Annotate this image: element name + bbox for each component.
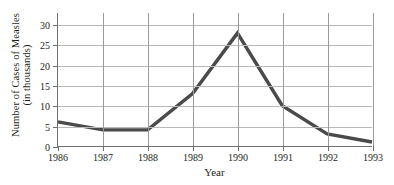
- y-axis-tick-label: 20: [40, 60, 50, 71]
- vertical-gridline: [238, 13, 239, 146]
- horizontal-gridline: [58, 66, 372, 67]
- x-axis-tick: [193, 146, 194, 151]
- y-axis-title-line-1: Number of Cases of Measles: [10, 13, 21, 137]
- y-axis-tick-label: 0: [45, 142, 50, 153]
- y-axis-tick: [53, 106, 58, 107]
- x-axis-title: Year: [57, 166, 372, 178]
- x-axis-tick: [103, 146, 104, 151]
- vertical-gridline: [373, 13, 374, 146]
- x-axis-tick-label: 1986: [48, 152, 68, 163]
- y-axis-tick-label: 5: [45, 121, 50, 132]
- horizontal-gridline: [58, 25, 372, 26]
- y-axis-title: Number of Cases of Measles (in thousands…: [4, 10, 38, 140]
- y-axis-tick: [53, 25, 58, 26]
- x-axis-tick-label: 1989: [183, 152, 203, 163]
- x-axis-tick: [328, 146, 329, 151]
- y-axis-tick-label: 15: [40, 81, 50, 92]
- x-axis-tick: [238, 146, 239, 151]
- y-axis-tick-label: 10: [40, 101, 50, 112]
- x-axis-tick-label: 1991: [273, 152, 293, 163]
- measles-cases-line-chart: Number of Cases of Measles (in thousands…: [0, 0, 394, 185]
- horizontal-gridline: [58, 45, 372, 46]
- x-axis-tick-label: 1990: [228, 152, 248, 163]
- x-axis-tick-label: 1993: [363, 152, 383, 163]
- y-axis-tick: [53, 45, 58, 46]
- x-axis-tick: [58, 146, 59, 151]
- vertical-gridline: [103, 13, 104, 146]
- x-axis-tick-label: 1987: [93, 152, 113, 163]
- y-axis-tick: [53, 66, 58, 67]
- y-axis-tick-label: 25: [40, 40, 50, 51]
- vertical-gridline: [193, 13, 194, 146]
- y-axis-tick-label: 30: [40, 20, 50, 31]
- horizontal-gridline: [58, 106, 372, 107]
- y-axis-title-line-2: (in thousands): [21, 44, 32, 105]
- x-axis-tick: [373, 146, 374, 151]
- vertical-gridline: [148, 13, 149, 146]
- x-axis-tick-label: 1992: [318, 152, 338, 163]
- y-axis-tick: [53, 86, 58, 87]
- x-axis-tick: [283, 146, 284, 151]
- horizontal-gridline: [58, 127, 372, 128]
- vertical-gridline: [328, 13, 329, 146]
- horizontal-gridline: [58, 86, 372, 87]
- vertical-gridline: [283, 13, 284, 146]
- x-axis-tick-label: 1988: [138, 152, 158, 163]
- plot-area: 0510152025301986198719881989199019911992…: [57, 13, 372, 147]
- y-axis-tick: [53, 127, 58, 128]
- x-axis-tick: [148, 146, 149, 151]
